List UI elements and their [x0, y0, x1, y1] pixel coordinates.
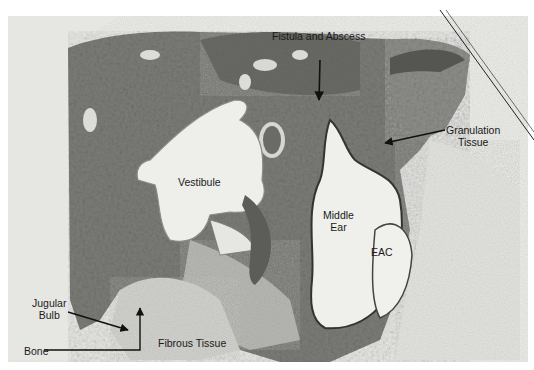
label-middle-ear-line2: Ear [323, 221, 354, 233]
micrograph-figure: Fistula and Abscess Granulation Tissue V… [0, 0, 534, 370]
label-fistula-and-abscess: Fistula and Abscess [272, 30, 365, 42]
label-granulation-tissue: Granulation Tissue [446, 124, 500, 148]
label-jugular-line1: Jugular [32, 297, 66, 309]
label-eac: EAC [371, 246, 393, 258]
label-jugular-line2: Bulb [32, 309, 66, 321]
label-middle-ear: Middle Ear [323, 209, 354, 233]
label-fibrous-tissue: Fibrous Tissue [158, 337, 226, 349]
fistula-arrow [319, 60, 320, 100]
micrograph-image [0, 0, 534, 370]
label-granulation-line1: Granulation [446, 124, 500, 136]
label-jugular-bulb: Jugular Bulb [32, 297, 66, 321]
label-bone: Bone [24, 345, 49, 357]
label-vestibule: Vestibule [178, 176, 221, 188]
label-granulation-line2: Tissue [446, 136, 500, 148]
label-middle-ear-line1: Middle [323, 209, 354, 221]
